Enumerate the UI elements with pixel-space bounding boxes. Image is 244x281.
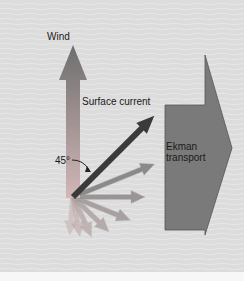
ekman-diagram: Wind Surface current Ekman transport 45° <box>0 0 244 281</box>
bottom-margin <box>0 272 244 281</box>
diagram-canvas <box>0 0 244 281</box>
ekman-label-line2: transport <box>166 152 205 163</box>
angle-label: 45° <box>55 155 70 166</box>
ekman-label-line1: Ekman <box>166 141 205 152</box>
wind-label: Wind <box>47 31 70 42</box>
surface-current-label: Surface current <box>82 96 150 107</box>
ekman-transport-label: Ekman transport <box>166 141 205 163</box>
